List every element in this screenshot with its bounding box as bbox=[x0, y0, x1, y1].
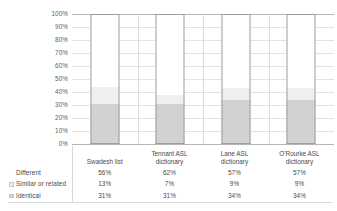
table-cell-value: 34% bbox=[202, 190, 267, 202]
y-axis-tick: 100% bbox=[51, 11, 68, 17]
stacked-bar[interactable] bbox=[221, 14, 250, 144]
column-header-line: Lane ASL bbox=[202, 150, 267, 158]
data-table: Swadesh listTennant ASLdictionaryLane AS… bbox=[8, 146, 332, 203]
legend-label: Similar or related bbox=[16, 181, 66, 187]
bar-segment-identical[interactable] bbox=[90, 104, 119, 144]
legend-label: Different bbox=[16, 170, 41, 176]
stacked-bar[interactable] bbox=[287, 14, 316, 144]
bar-segment-identical[interactable] bbox=[287, 100, 316, 144]
bar-segment-identical[interactable] bbox=[221, 100, 250, 144]
grid-area bbox=[72, 14, 334, 144]
table-row: Different56%62%57%57% bbox=[8, 167, 332, 179]
plot-area: 0%10%20%30%40%50%60%70%80%90%100% bbox=[0, 0, 337, 162]
table-cell-value: 9% bbox=[202, 179, 267, 191]
bar-slot bbox=[203, 14, 269, 144]
stacked-bar[interactable] bbox=[90, 14, 119, 144]
table-row: Similar or related13%7%9%9% bbox=[8, 179, 332, 191]
table-row-label: Different bbox=[8, 167, 72, 179]
bar-segment-different[interactable] bbox=[221, 14, 250, 88]
y-axis-tick: 40% bbox=[55, 89, 68, 95]
table-cell-value: 34% bbox=[267, 190, 332, 202]
y-axis-tick: 30% bbox=[55, 102, 68, 108]
bar-slot bbox=[138, 14, 204, 144]
column-header-line: O'Rourke ASL bbox=[267, 150, 332, 158]
gridline bbox=[72, 144, 334, 145]
bar-segment-similar-or-related[interactable] bbox=[90, 87, 119, 104]
y-axis-tick: 90% bbox=[55, 24, 68, 30]
y-axis: 0%10%20%30%40%50%60%70%80%90%100% bbox=[38, 14, 70, 144]
table-cell-value: 9% bbox=[267, 179, 332, 191]
table-body: Different56%62%57%57%Similar or related1… bbox=[8, 167, 332, 202]
bar-segment-different[interactable] bbox=[287, 14, 316, 88]
y-axis-tick: 20% bbox=[55, 115, 68, 121]
table-corner-header bbox=[8, 146, 72, 167]
column-header-line: dictionary bbox=[137, 158, 202, 166]
column-header-line: dictionary bbox=[267, 158, 332, 166]
bar-slot bbox=[72, 14, 138, 144]
table-column-header: Swadesh list bbox=[72, 146, 137, 167]
bar-slot bbox=[269, 14, 335, 144]
table-cell-value: 57% bbox=[267, 167, 332, 179]
table-row-label: Similar or related bbox=[8, 179, 72, 191]
stacked-bar-chart: 0%10%20%30%40%50%60%70%80%90%100% Swades… bbox=[0, 0, 337, 211]
y-axis-tick: 50% bbox=[55, 76, 68, 82]
stacked-bar[interactable] bbox=[156, 14, 185, 144]
y-axis-tick: 80% bbox=[55, 37, 68, 43]
table-column-header: Tennant ASLdictionary bbox=[137, 146, 202, 167]
legend-swatch-icon bbox=[9, 182, 14, 187]
table-header-row: Swadesh listTennant ASLdictionaryLane AS… bbox=[8, 146, 332, 167]
y-axis-tick: 70% bbox=[55, 50, 68, 56]
table-column-header: Lane ASLdictionary bbox=[202, 146, 267, 167]
bar-segment-similar-or-related[interactable] bbox=[221, 88, 250, 100]
y-axis-tick: 60% bbox=[55, 63, 68, 69]
table-cell-value: 31% bbox=[137, 190, 202, 202]
table-cell-value: 7% bbox=[137, 179, 202, 191]
column-header-line: Swadesh list bbox=[73, 158, 138, 166]
table-cell-value: 31% bbox=[72, 190, 137, 202]
table-column-header: O'Rourke ASLdictionary bbox=[267, 146, 332, 167]
legend-swatch-icon bbox=[9, 194, 14, 199]
legend-swatch-icon bbox=[9, 171, 14, 176]
table-cell-value: 56% bbox=[72, 167, 137, 179]
table-cell-value: 57% bbox=[202, 167, 267, 179]
table-row: Identical31%31%34%34% bbox=[8, 190, 332, 202]
legend-label: Identical bbox=[16, 193, 41, 199]
table-cell-value: 13% bbox=[72, 179, 137, 191]
bar-segment-different[interactable] bbox=[90, 14, 119, 87]
bars-layer bbox=[72, 14, 334, 144]
bar-segment-similar-or-related[interactable] bbox=[156, 95, 185, 104]
bar-segment-similar-or-related[interactable] bbox=[287, 88, 316, 100]
column-header-line: Tennant ASL bbox=[137, 150, 202, 158]
column-header-line: dictionary bbox=[202, 158, 267, 166]
y-axis-tick: 10% bbox=[55, 128, 68, 134]
table-row-label: Identical bbox=[8, 190, 72, 202]
data-table-wrap: Swadesh listTennant ASLdictionaryLane AS… bbox=[8, 146, 332, 203]
bar-segment-different[interactable] bbox=[156, 14, 185, 95]
table-cell-value: 62% bbox=[137, 167, 202, 179]
bar-segment-identical[interactable] bbox=[156, 104, 185, 144]
